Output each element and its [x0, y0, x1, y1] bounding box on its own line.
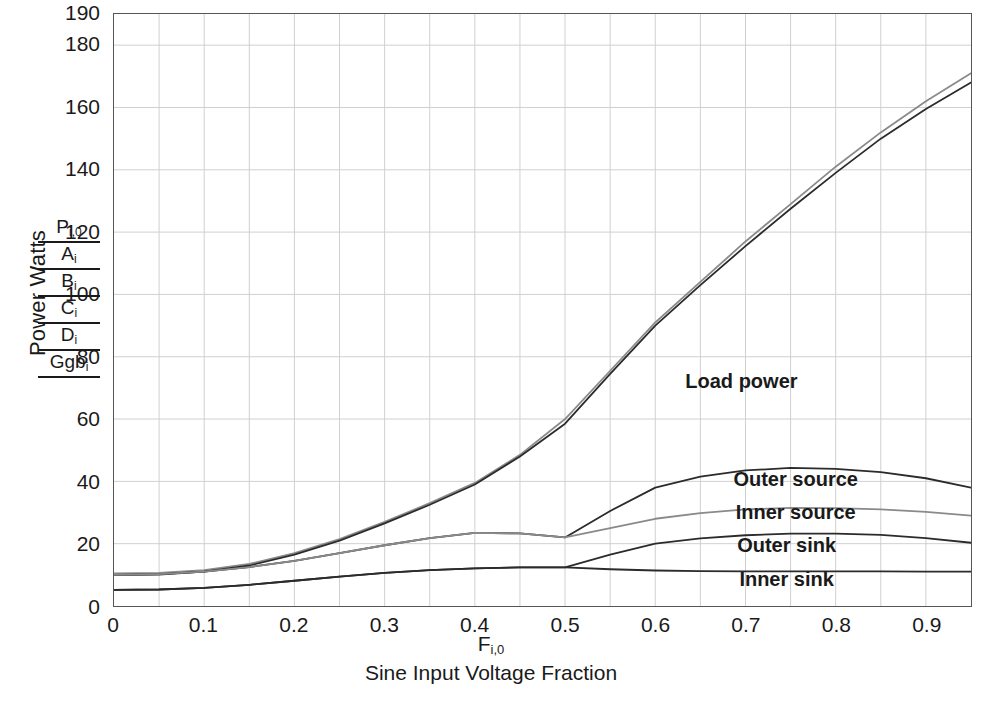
x-axis-variable-sub: i,0	[491, 642, 505, 657]
chart-figure: Power Watts Pi,0 Ai Bi Ci Di Ggbi 020406…	[0, 0, 982, 707]
series-annotation: Load power	[685, 370, 797, 393]
series-line-4	[114, 534, 971, 590]
x-axis-variable: Fi,0	[0, 632, 982, 657]
series-annotation: Inner source	[736, 501, 856, 524]
series-annotation: Inner sink	[739, 568, 833, 591]
x-axis-caption: Sine Input Voltage Fraction	[0, 661, 982, 685]
series-line-0	[114, 73, 971, 573]
series-annotation: Outer sink	[737, 534, 836, 557]
series-annotation: Outer source	[733, 468, 857, 491]
series-line-5	[114, 567, 971, 589]
x-axis-variable-base: F	[478, 632, 491, 655]
